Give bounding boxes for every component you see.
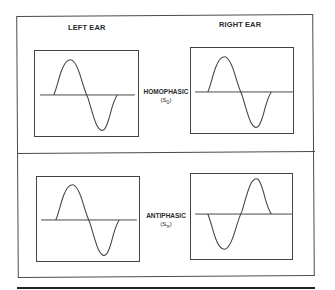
right-ear-header: RIGHT EAR	[219, 20, 261, 29]
sine-wave-icon	[191, 48, 293, 133]
inverted-sine-wave-icon	[191, 174, 292, 259]
bottom-rule	[17, 287, 315, 289]
sine-wave-icon	[37, 177, 139, 261]
sine-wave-icon	[35, 51, 138, 136]
right-ear-antiphasic-panel	[190, 173, 293, 260]
left-ear-homophasic-panel	[34, 50, 139, 137]
antiphasic-label: ANTIPHASIC (Sπ)	[141, 212, 191, 230]
homophasic-label: HOMOPHASIC (S0)	[141, 88, 191, 106]
left-ear-header: LEFT EAR	[68, 23, 105, 32]
right-ear-homophasic-panel	[190, 47, 294, 134]
left-ear-antiphasic-panel	[36, 176, 140, 262]
